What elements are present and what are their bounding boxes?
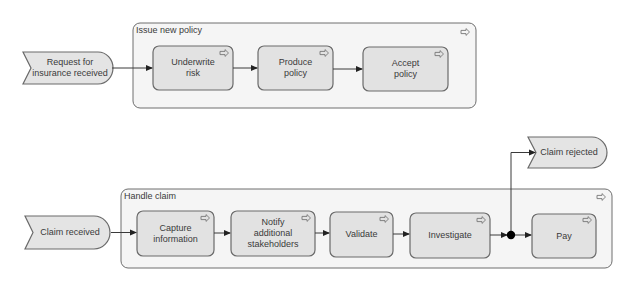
event-label-claim-received: Claim received xyxy=(30,216,110,249)
task-label-line: risk xyxy=(186,68,200,79)
task-label-pay: Pay xyxy=(532,214,596,258)
event-label-line: insurance received xyxy=(32,68,108,79)
event-label-line: Request for xyxy=(47,57,94,68)
junction-dot[interactable] xyxy=(507,231,515,239)
task-label-line: Accept xyxy=(392,58,420,69)
task-label-investigate: Investigate xyxy=(410,213,490,258)
task-label-underwrite-risk: Underwrite risk xyxy=(153,46,233,90)
task-label-line: information xyxy=(153,234,198,245)
task-label-line: additional xyxy=(254,228,293,239)
task-label-line: stakeholders xyxy=(247,239,298,250)
task-label-line: Underwrite xyxy=(171,57,215,68)
task-label-line: policy xyxy=(284,68,307,79)
task-label-line: Produce xyxy=(279,57,313,68)
event-label-request: Request for insurance received xyxy=(28,52,112,84)
task-label-line: Capture xyxy=(159,223,191,234)
container-title-handle-claim: Handle claim xyxy=(124,191,176,201)
container-title-issue-new-policy: Issue new policy xyxy=(136,25,202,35)
task-label-line: Notify xyxy=(261,217,284,228)
task-label-validate: Validate xyxy=(330,212,393,257)
task-label-capture-information: Capture information xyxy=(137,211,214,256)
task-label-produce-policy: Produce policy xyxy=(258,46,333,90)
task-label-line: policy xyxy=(394,69,417,80)
event-label-claim-rejected: Claim rejected xyxy=(532,137,606,168)
task-label-accept-policy: Accept policy xyxy=(363,47,448,91)
task-label-notify-additional-stakeholders: Notify additional stakeholders xyxy=(231,211,315,256)
